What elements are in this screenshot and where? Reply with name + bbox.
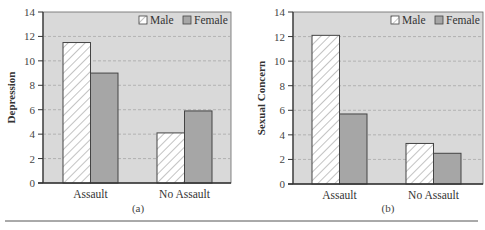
x-category-label: Assault <box>73 188 108 200</box>
y-axis-label: Sexual Concern <box>255 61 267 135</box>
y-tick-label: 8 <box>30 79 36 91</box>
legend-label-male: Male <box>150 14 174 26</box>
legend-swatch-male <box>139 16 147 24</box>
bar-female-assault <box>340 114 368 184</box>
bar-male-assault <box>63 43 91 183</box>
legend: MaleFemale <box>139 14 228 26</box>
bar-male-no-assault <box>157 133 185 183</box>
bar-female-no-assault <box>185 111 213 183</box>
bar-male-assault <box>312 35 340 184</box>
legend-swatch-female <box>435 16 443 24</box>
y-tick-label: 0 <box>280 178 286 190</box>
chart-panel-b: 02468101214 AssaultNo Assault Sexual Con… <box>255 6 483 215</box>
bar-male-no-assault <box>406 143 434 184</box>
x-categories: AssaultNo Assault <box>322 189 459 201</box>
y-tick-label: 10 <box>24 55 36 67</box>
bar-female-assault <box>91 73 119 183</box>
y-tick-label: 8 <box>280 80 286 92</box>
panel-caption: (b) <box>382 202 395 215</box>
legend-swatch-male <box>391 16 399 24</box>
x-category-label: No Assault <box>159 188 211 200</box>
y-tick-label: 6 <box>30 104 36 116</box>
y-axis-label: Depression <box>5 72 17 124</box>
chart-panel-a: 02468101214 AssaultNo Assault Depression… <box>5 6 231 215</box>
y-tick-label: 2 <box>280 153 286 165</box>
y-ticks: 02468101214 <box>24 6 43 189</box>
figure: 02468101214 AssaultNo Assault Depression… <box>0 0 485 230</box>
y-tick-label: 10 <box>274 55 286 67</box>
x-categories: AssaultNo Assault <box>73 188 210 200</box>
x-category-label: Assault <box>322 189 357 201</box>
legend-label-female: Female <box>446 14 480 26</box>
bar-female-no-assault <box>434 153 462 184</box>
panel-caption: (a) <box>132 202 145 215</box>
x-category-label: No Assault <box>408 189 460 201</box>
y-tick-label: 6 <box>280 104 286 116</box>
y-tick-label: 14 <box>24 6 36 18</box>
y-tick-label: 0 <box>30 177 36 189</box>
legend-swatch-female <box>183 16 191 24</box>
legend: MaleFemale <box>391 14 480 26</box>
y-tick-label: 12 <box>24 30 35 42</box>
legend-label-male: Male <box>402 14 426 26</box>
legend-label-female: Female <box>194 14 228 26</box>
y-tick-label: 14 <box>274 6 286 18</box>
y-ticks: 02468101214 <box>274 6 293 190</box>
y-tick-label: 4 <box>30 128 36 140</box>
y-tick-label: 4 <box>280 129 286 141</box>
y-tick-label: 12 <box>274 31 285 43</box>
y-tick-label: 2 <box>30 153 36 165</box>
